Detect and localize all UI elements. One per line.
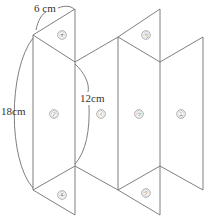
dimension-arc-6cm	[58, 6, 75, 10]
prism-net-diagram: 6 cm 18cm 12cm ㋔ ㋕ ㋐ ㋑ ㋒ ㋓ ㋖ ㋗	[0, 0, 206, 224]
face-label-o: ㋔	[58, 31, 67, 40]
svg-text:㋔: ㋔	[59, 31, 65, 39]
svg-text:㋖: ㋖	[59, 191, 65, 199]
svg-text:㋗: ㋗	[143, 189, 149, 197]
face-label-i: ㋑	[97, 110, 106, 119]
triangle-ka-top-edge	[118, 9, 160, 37]
face-label-e: ㋓	[177, 110, 186, 119]
label-6cm: 6 cm	[34, 2, 56, 14]
face-label-ka: ㋕	[142, 31, 151, 40]
label-18cm: 18cm	[1, 105, 26, 117]
label-12cm: 12cm	[80, 92, 105, 104]
svg-text:㋐: ㋐	[51, 110, 57, 118]
face-label-ku: ㋗	[142, 189, 151, 198]
dimension-arc-12cm-lower	[75, 105, 89, 164]
face-label-ki: ㋖	[58, 191, 67, 200]
triangle-ki-bottom-edge	[33, 190, 75, 215]
svg-text:㋑: ㋑	[98, 110, 104, 118]
dimension-arc-6cm-lower	[36, 12, 46, 30]
dimension-arc-12cm	[75, 64, 88, 92]
face-label-a: ㋐	[50, 110, 59, 119]
svg-text:㋓: ㋓	[178, 110, 184, 118]
face-label-u: ㋒	[135, 110, 144, 119]
triangle-ku-bottom-edge	[118, 190, 160, 215]
svg-text:㋒: ㋒	[136, 110, 142, 118]
svg-text:㋕: ㋕	[143, 31, 149, 39]
